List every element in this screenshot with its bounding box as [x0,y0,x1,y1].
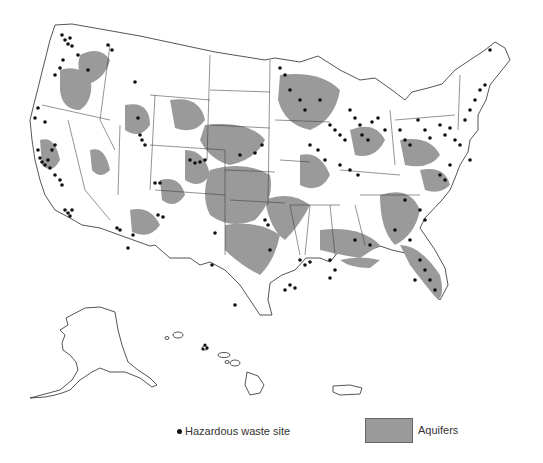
legend-aquifer-label: Aquifers [418,424,458,436]
us-map [0,0,543,463]
legend-site-label: Hazardous waste site [185,425,290,437]
puerto-rico-outline [333,385,362,395]
alaska-outline [30,307,157,398]
map-legend: Hazardous waste site Aquifers [0,418,543,448]
aquifer-swatch-icon [365,418,413,443]
hawaii-islands [165,332,264,395]
hazardous-site-dot-icon [177,429,182,434]
legend-hazardous-waste-site: Hazardous waste site [177,425,290,437]
